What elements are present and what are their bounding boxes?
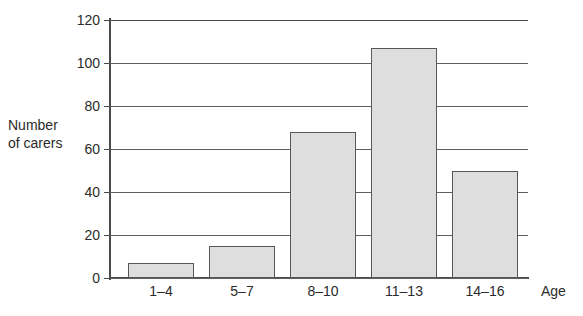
x-tick-label-11-13: 11–13	[385, 284, 423, 299]
bar-1-4	[128, 263, 194, 278]
y-tick-label-20: 20	[84, 228, 100, 242]
x-tick-label-1-4: 1–4	[149, 284, 172, 299]
y-tick-label-120: 120	[77, 13, 100, 27]
x-tick-label-14-16: 14–16	[466, 284, 505, 299]
y-tick-label-40: 40	[84, 185, 100, 199]
plot-area: 0 20 40 60 80 100 120	[110, 20, 528, 278]
y-tick-label-0: 0	[92, 271, 100, 285]
bars-layer	[110, 20, 528, 278]
y-axis-title-line-2: of carers	[8, 134, 98, 152]
bar-chart-figure: 0 20 40 60 80 100 120	[0, 0, 583, 316]
bar-5-7	[209, 246, 275, 278]
x-tick-label-8-10: 8–10	[307, 284, 338, 299]
bar-8-10	[290, 132, 356, 278]
y-axis-title: Number of carers	[8, 116, 98, 152]
x-tick-label-5-7: 5–7	[230, 284, 253, 299]
y-tick-label-80: 80	[84, 99, 100, 113]
y-tick-mark-0	[104, 278, 110, 279]
y-tick-label-100: 100	[77, 56, 100, 70]
bar-11-13	[371, 48, 437, 278]
gridline-0: 0	[110, 278, 528, 279]
bar-14-16	[452, 171, 518, 279]
x-axis-title: Age	[541, 283, 566, 299]
y-axis-title-line-1: Number	[8, 116, 98, 134]
